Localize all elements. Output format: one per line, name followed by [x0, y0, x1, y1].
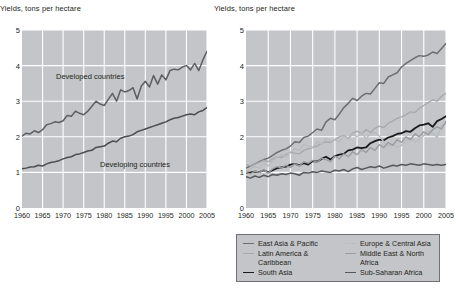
legend-label: South Asia: [258, 268, 343, 277]
y-axis-tick-label: 1: [240, 168, 244, 177]
x-axis-tick-label: 1975: [305, 211, 321, 220]
legend-swatch-line-icon: [243, 253, 254, 254]
x-axis-tick-label: 1965: [260, 211, 276, 220]
legend-swatch-line-icon: [345, 272, 356, 273]
x-axis-tick-label: 2000: [416, 211, 432, 220]
figure-root: Yields, tons per hectare 012345 Develope…: [0, 0, 456, 290]
x-axis-labels-right: 1960196519701975198019851990199520002005: [246, 211, 446, 223]
legend-label: Europe & Central Asia: [360, 239, 441, 248]
x-axis-tick-label: 1960: [14, 211, 30, 220]
x-axis-labels-left: 1960196519701975198019851990199520002005: [22, 211, 207, 223]
legend-item[interactable]: South Asia: [243, 268, 343, 277]
x-axis-tick-label: 2000: [178, 211, 194, 220]
x-axis-tick-label: 1960: [238, 211, 254, 220]
series-line: [246, 121, 446, 174]
plot-background-left: [22, 30, 207, 208]
legend-swatch-line-icon: [243, 243, 254, 244]
x-axis-tick-label: 1975: [76, 211, 92, 220]
series-annotation-developing: Developing countries: [100, 160, 170, 169]
legend-item[interactable]: Middle East & North Africa: [345, 249, 441, 267]
y-axis-tick-label: 3: [240, 97, 244, 106]
y-axis-tick-label: 3: [16, 97, 20, 106]
series-annotation-developed: Developed countries: [56, 72, 124, 81]
plot-background-right: [246, 30, 446, 208]
x-axis-tick-label: 1970: [282, 211, 298, 220]
x-axis-tick-label: 2005: [438, 211, 454, 220]
x-axis-tick-label: 1995: [158, 211, 174, 220]
plot-svg-left: [22, 30, 207, 208]
y-axis-labels-right: 012345: [226, 30, 244, 208]
x-axis-tick-label: 1990: [371, 211, 387, 220]
y-axis-labels-left: 012345: [2, 30, 20, 208]
x-axis-tick-label: 1980: [96, 211, 112, 220]
plot-area-left: [22, 30, 207, 208]
series-line: [246, 164, 446, 178]
legend-label: East Asia & Pacific: [258, 239, 343, 248]
y-axis-tick-label: 5: [240, 26, 244, 35]
x-axis-tick-label: 1995: [394, 211, 410, 220]
x-axis-tick-label: 1970: [55, 211, 71, 220]
y-axis-tick-label: 2: [16, 132, 20, 141]
x-axis-tick-label: 1980: [327, 211, 343, 220]
y-axis-tick-label: 2: [240, 132, 244, 141]
x-axis-tick-label: 2005: [199, 211, 215, 220]
legend-column-right: Europe & Central AsiaMiddle East & North…: [345, 239, 441, 278]
x-axis-tick-label: 1965: [35, 211, 51, 220]
legend-item[interactable]: Latin America & Caribbean: [243, 249, 343, 267]
legend-item[interactable]: Europe & Central Asia: [345, 239, 441, 248]
plot-area-right: [246, 30, 446, 208]
chart-legend: East Asia & PacificLatin America & Carib…: [236, 234, 440, 282]
legend-column-left: East Asia & PacificLatin America & Carib…: [243, 239, 343, 278]
x-axis-tick-label: 1985: [117, 211, 133, 220]
y-axis-tick-label: 1: [16, 168, 20, 177]
x-axis-tick-label: 1990: [137, 211, 153, 220]
series-line: [246, 124, 446, 171]
plot-svg-right: [246, 30, 446, 208]
y-axis-tick-label: 5: [16, 26, 20, 35]
x-axis-tick-label: 1985: [349, 211, 365, 220]
legend-item[interactable]: Sub-Saharan Africa: [345, 268, 441, 277]
chart-title-right: Yields, tons per hectare: [214, 4, 295, 13]
y-axis-tick-label: 4: [16, 61, 20, 70]
y-axis-tick-label: 4: [240, 61, 244, 70]
legend-swatch-line-icon: [243, 272, 254, 273]
legend-item[interactable]: East Asia & Pacific: [243, 239, 343, 248]
legend-label: Middle East & North Africa: [360, 249, 441, 267]
legend-swatch-line-icon: [345, 243, 356, 244]
legend-label: Sub-Saharan Africa: [360, 268, 441, 277]
chart-title-left: Yields, tons per hectare: [0, 4, 81, 13]
series-line: [246, 44, 446, 169]
series-line: [22, 51, 207, 136]
legend-swatch-line-icon: [345, 253, 356, 254]
legend-label: Latin America & Caribbean: [258, 249, 343, 267]
